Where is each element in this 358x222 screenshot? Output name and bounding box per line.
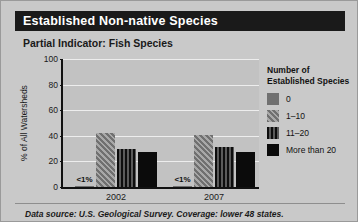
legend-swatch-icon [267, 110, 279, 122]
y-tick-label: 100 [44, 54, 58, 64]
y-tick-mark [60, 110, 63, 111]
legend-swatch-icon [267, 127, 279, 139]
figure-panel: Established Non-native Species Partial I… [0, 0, 358, 222]
y-tick-mark [60, 161, 63, 162]
y-tick-label: 60 [49, 105, 58, 115]
legend-title: Number of Established Species [267, 65, 358, 87]
legend-item: More than 20 [267, 144, 358, 156]
data-source-note: Data source: U.S. Geological Survey. Cov… [25, 209, 284, 219]
y-tick-label: 20 [49, 156, 58, 166]
y-tick-mark [60, 59, 63, 60]
bar [215, 147, 234, 187]
plot-area: 020406080100<1%2002<1%2007 [61, 59, 259, 189]
legend-item-label: More than 20 [286, 145, 336, 155]
y-axis-label: % of All Watersheds [19, 59, 31, 187]
gridline [63, 110, 259, 111]
gridline [63, 136, 259, 137]
bar [138, 152, 157, 187]
page-title: Established Non-native Species [23, 14, 218, 28]
legend-item: 11–20 [267, 127, 358, 139]
bar-value-label: <1% [76, 175, 92, 184]
legend-item: 1–10 [267, 110, 358, 122]
bar [194, 135, 213, 187]
y-tick-label: 0 [53, 182, 58, 192]
legend-item-label: 0 [286, 94, 291, 104]
bar [96, 133, 115, 187]
legend-swatch-icon [267, 93, 279, 105]
gridline [63, 59, 259, 60]
legend-items: 01–1011–20More than 20 [267, 93, 358, 156]
legend-item: 0 [267, 93, 358, 105]
y-tick-mark [60, 85, 63, 86]
y-tick-label: 40 [49, 131, 58, 141]
legend-swatch-icon [267, 144, 279, 156]
figure-inner: Established Non-native Species Partial I… [7, 7, 353, 217]
footer-divider [15, 203, 345, 204]
y-tick-label: 80 [49, 80, 58, 90]
x-axis-group-label: 2007 [204, 192, 224, 202]
title-bar: Established Non-native Species [15, 11, 345, 31]
bar [75, 186, 94, 188]
y-tick-mark [60, 136, 63, 137]
bar [117, 149, 136, 187]
bar [236, 152, 255, 187]
chart-legend: Number of Established Species 01–1011–20… [267, 65, 358, 161]
bar [173, 186, 192, 188]
y-tick-mark [60, 187, 63, 188]
bar-value-label: <1% [174, 175, 190, 184]
legend-item-label: 1–10 [286, 111, 305, 121]
x-axis-group-label: 2002 [106, 192, 126, 202]
legend-item-label: 11–20 [286, 128, 309, 138]
gridline [63, 85, 259, 86]
chart-subtitle: Partial Indicator: Fish Species [23, 37, 173, 49]
